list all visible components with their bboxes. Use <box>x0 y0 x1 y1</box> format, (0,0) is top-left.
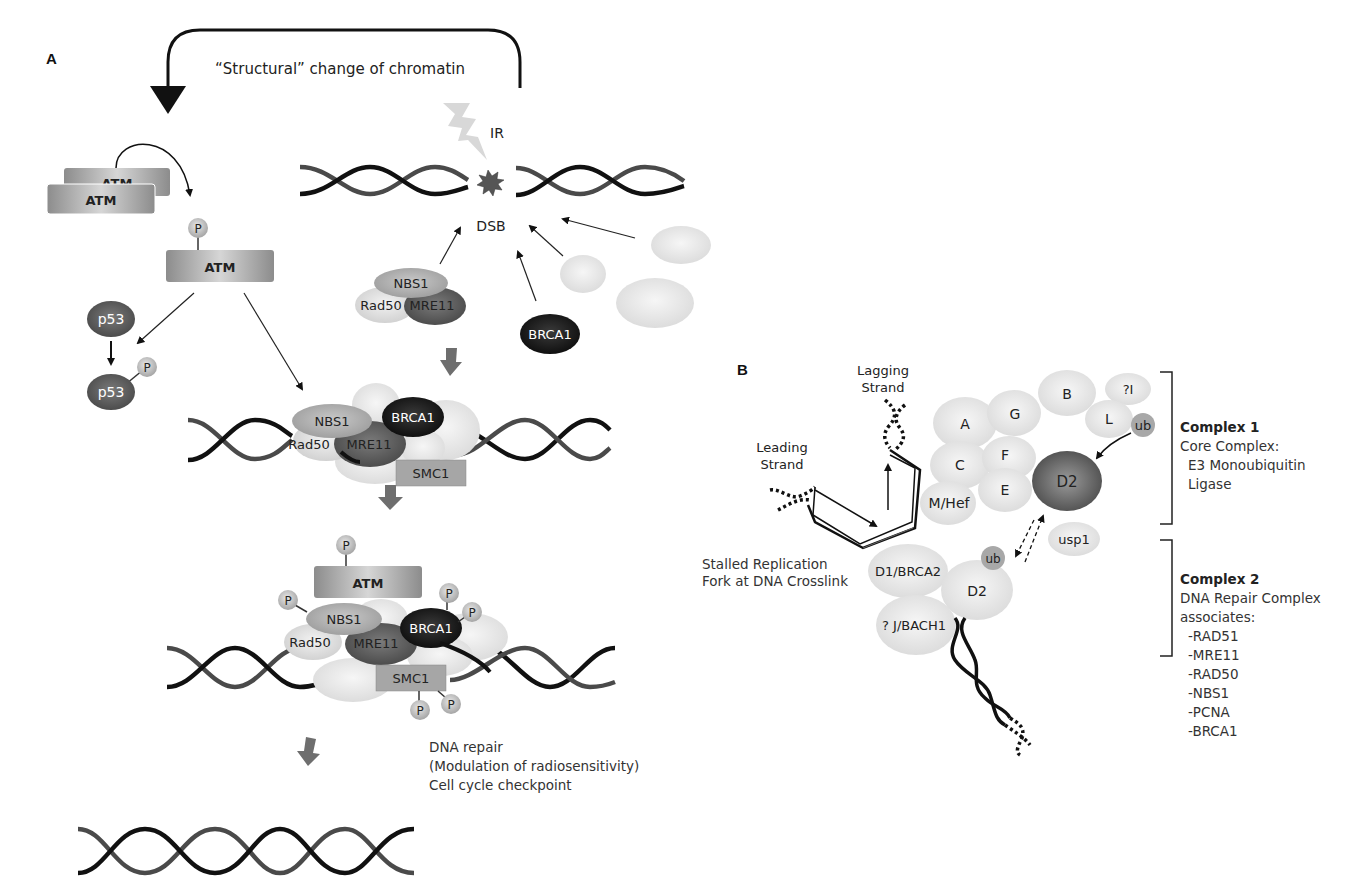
svg-text:(Modulation of radiosensitivit: (Modulation of radiosensitivity) <box>429 758 639 774</box>
d2-protein: D2 <box>1032 451 1102 511</box>
panel-a-label: A <box>46 50 57 67</box>
svg-text:DNA repair: DNA repair <box>429 739 503 755</box>
svg-text:p53: p53 <box>98 311 125 327</box>
complex-2-description: Complex 2 DNA Repair Complex associates:… <box>1180 571 1321 739</box>
svg-text:Rad50: Rad50 <box>289 635 331 650</box>
svg-text:BRCA1: BRCA1 <box>391 410 435 425</box>
dsb-label: DSB <box>476 218 505 234</box>
unlabeled-protein-large <box>616 278 694 328</box>
panel-b-label: B <box>737 361 748 378</box>
svg-text:Cell cycle checkpoint: Cell cycle checkpoint <box>429 777 572 793</box>
svg-text:-NBS1: -NBS1 <box>1188 685 1229 701</box>
svg-text:ATM: ATM <box>353 576 384 591</box>
mrn-complex-free: NBS1 Rad50 MRE11 <box>355 268 466 325</box>
svg-text:ATM: ATM <box>205 260 236 275</box>
svg-text:p53: p53 <box>98 384 125 400</box>
svg-text:associates:: associates: <box>1180 609 1255 625</box>
atm-phosphorylated: P ATM <box>166 218 274 282</box>
svg-text:L: L <box>1105 411 1113 427</box>
protein-to-dsb-arrow-1 <box>530 226 563 256</box>
svg-text:Complex 1: Complex 1 <box>1180 419 1260 435</box>
ir-label: IR <box>490 125 504 141</box>
atm-dimer: ATM ATM <box>47 168 170 214</box>
svg-text:C: C <box>955 457 965 473</box>
svg-text:BRCA1: BRCA1 <box>528 327 572 342</box>
svg-text:ub: ub <box>1135 418 1152 433</box>
svg-text:Lagging: Lagging <box>857 363 909 378</box>
svg-text:P: P <box>284 594 291 608</box>
svg-text:-BRCA1: -BRCA1 <box>1188 723 1238 739</box>
dna-helix-lower <box>952 618 1030 755</box>
svg-text:F: F <box>1001 447 1009 463</box>
svg-text:P: P <box>447 698 454 712</box>
svg-text:P: P <box>416 704 423 718</box>
svg-text:Stalled Replication: Stalled Replication <box>702 556 828 572</box>
svg-text:ATM: ATM <box>86 193 117 208</box>
svg-text:NBS1: NBS1 <box>315 414 350 429</box>
step-arrow-2 <box>378 485 403 510</box>
dna-helix-repaired <box>78 829 414 873</box>
svg-text:? J/BACH1: ? J/BACH1 <box>882 618 946 633</box>
svg-text:A: A <box>960 416 970 432</box>
mrn-to-dsb-arrow <box>440 228 460 264</box>
svg-text:SMC1: SMC1 <box>393 671 430 686</box>
svg-text:E3 Monoubiquitin: E3 Monoubiquitin <box>1188 457 1306 473</box>
svg-text:?I: ?I <box>1123 382 1134 397</box>
replication-fork <box>770 400 920 548</box>
atm-to-complex-arrow <box>244 293 302 389</box>
bracket-complex-2 <box>1160 540 1172 656</box>
svg-text:-PCNA: -PCNA <box>1188 704 1231 720</box>
usp1-protein: usp1 <box>1048 522 1100 556</box>
step-arrow-3 <box>297 737 320 766</box>
svg-text:D2: D2 <box>1056 473 1077 491</box>
unlabeled-protein-small <box>560 255 606 293</box>
dsb-burst-icon <box>477 170 504 196</box>
repair-complex-1: NBS1 Rad50 MRE11 BRCA1 SMC1 <box>288 383 480 486</box>
svg-text:Rad50: Rad50 <box>360 298 402 313</box>
outcomes-text: DNA repair (Modulation of radiosensitivi… <box>429 739 639 793</box>
protein-to-dsb-arrow-2 <box>563 219 635 238</box>
bracket-complex-1 <box>1160 372 1172 524</box>
svg-text:P: P <box>445 587 452 601</box>
svg-text:MRE11: MRE11 <box>353 636 398 651</box>
fork-repair-complex: D1/BRCA2 D2 ? J/BACH1 ub <box>868 544 1013 655</box>
svg-text:MRE11: MRE11 <box>346 437 391 452</box>
lagging-strand-label: Lagging Strand <box>857 363 909 395</box>
svg-text:DNA Repair Complex: DNA Repair Complex <box>1180 590 1321 606</box>
svg-text:MRE11: MRE11 <box>409 298 454 313</box>
svg-text:usp1: usp1 <box>1058 532 1090 547</box>
svg-text:Leading: Leading <box>756 440 807 455</box>
svg-text:SMC1: SMC1 <box>413 466 450 481</box>
svg-text:NBS1: NBS1 <box>394 276 429 291</box>
svg-text:D2: D2 <box>967 583 987 599</box>
brca1-free: BRCA1 <box>520 314 580 354</box>
svg-text:Strand: Strand <box>760 457 803 472</box>
svg-text:P: P <box>468 606 475 620</box>
svg-text:-RAD50: -RAD50 <box>1188 666 1239 682</box>
svg-text:Strand: Strand <box>861 380 904 395</box>
svg-text:G: G <box>1010 406 1021 422</box>
svg-text:B: B <box>1062 386 1072 402</box>
leading-strand-label: Leading Strand <box>756 440 807 472</box>
svg-text:-RAD51: -RAD51 <box>1188 628 1239 644</box>
stalled-fork-label: Stalled Replication Fork at DNA Crosslin… <box>702 556 848 589</box>
svg-text:Ligase: Ligase <box>1188 476 1231 492</box>
svg-text:M/Hef: M/Hef <box>929 495 971 511</box>
dna-helix-broken-left <box>300 167 468 194</box>
svg-text:P: P <box>194 222 201 236</box>
svg-text:ub: ub <box>985 552 1000 566</box>
svg-text:Complex 2: Complex 2 <box>1180 571 1260 587</box>
unlabeled-protein-top <box>651 226 711 264</box>
leading-fork-arrow <box>815 490 876 526</box>
step-arrow-1 <box>440 348 462 376</box>
svg-text:-MRE11: -MRE11 <box>1188 647 1240 663</box>
fanconi-core-complex: A G B ?I L C F E M/Hef ub <box>920 370 1155 525</box>
svg-text:D1/BRCA2: D1/BRCA2 <box>875 564 941 579</box>
svg-text:NBS1: NBS1 <box>327 612 362 627</box>
svg-text:P: P <box>143 361 150 375</box>
svg-text:BRCA1: BRCA1 <box>409 621 453 636</box>
atm-to-p53-arrow <box>138 293 194 343</box>
p53-protein: p53 <box>87 301 135 337</box>
svg-text:Core Complex:: Core Complex: <box>1180 438 1279 454</box>
p53-phosphorylated: P p53 <box>87 357 157 410</box>
